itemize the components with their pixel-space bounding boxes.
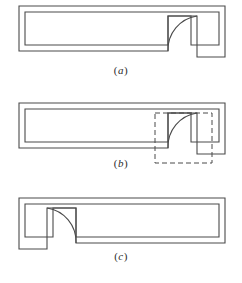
figure-panel-b: (b): [0, 95, 242, 190]
figure-panel-c: (c): [0, 190, 242, 283]
selection-window-dashed-box: [155, 113, 212, 163]
inner-wall-outline-c: [25, 204, 219, 237]
door-swing-arc-b: [168, 113, 197, 148]
figure-a-drawing: [0, 0, 242, 70]
caption-c-close: ): [124, 250, 128, 262]
door-swing-arc-a: [168, 16, 197, 51]
caption-a-close: ): [124, 64, 128, 76]
inner-wall-outline-a: [25, 12, 219, 45]
figure-caption-a: (a): [0, 64, 242, 76]
figure-page: (a) (b): [0, 0, 242, 283]
figure-caption-b: (b): [0, 157, 242, 169]
outer-wall-outline-c: [19, 198, 225, 249]
figure-caption-c: (c): [0, 250, 242, 262]
inner-wall-outline-b: [25, 109, 219, 142]
door-swing-arc-c: [47, 208, 76, 243]
outer-wall-outline-b: [19, 103, 225, 154]
figure-panel-a: (a): [0, 0, 242, 95]
caption-b-close: ): [124, 157, 128, 169]
outer-wall-outline-a: [19, 6, 225, 57]
